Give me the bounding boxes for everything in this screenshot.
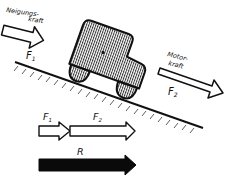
sum-f1-label: F1: [43, 111, 52, 123]
force-diagram: Neigungs- kraft F1 Motor- kraft F2 F1 F2…: [0, 0, 233, 183]
incline-force-symbol: F1: [26, 50, 36, 62]
incline-force-label-2: kraft: [28, 15, 45, 25]
vector-sum-f1: [39, 122, 70, 140]
vehicle: [65, 19, 155, 102]
vector-sum-f2: [70, 122, 135, 140]
motor-force-symbol: F2: [168, 86, 178, 98]
sum-f2-label: F2: [93, 111, 102, 123]
resultant-arrow: [39, 155, 136, 175]
resultant-label: R: [77, 146, 84, 157]
